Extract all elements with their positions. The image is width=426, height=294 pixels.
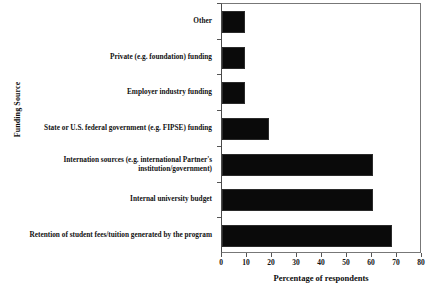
category-label: Internation sources (e.g. international … bbox=[16, 154, 212, 173]
x-axis-tick bbox=[321, 253, 322, 257]
category-label: State or U.S. federal government (e.g. F… bbox=[16, 123, 212, 133]
y-axis-tick bbox=[217, 74, 221, 75]
x-axis-tick-label: 10 bbox=[233, 258, 259, 267]
x-axis-title: Percentage of respondents bbox=[221, 273, 421, 283]
category-label: Private (e.g. foundation) funding bbox=[16, 52, 212, 62]
bar bbox=[222, 11, 245, 33]
category-label: Internal university budget bbox=[16, 195, 212, 205]
x-axis-tick bbox=[396, 253, 397, 257]
x-axis-tick bbox=[296, 253, 297, 257]
bar bbox=[222, 118, 269, 140]
bar bbox=[222, 82, 245, 104]
y-axis-tick bbox=[217, 39, 221, 40]
category-label: Employer industry funding bbox=[16, 88, 212, 98]
x-axis-tick-label: 50 bbox=[333, 258, 359, 267]
y-axis-tick bbox=[217, 3, 221, 4]
x-axis-tick bbox=[421, 253, 422, 257]
y-axis-tick bbox=[217, 110, 221, 111]
x-axis-tick bbox=[221, 253, 222, 257]
x-axis-tick-label: 30 bbox=[283, 258, 309, 267]
plot-area bbox=[221, 3, 421, 253]
category-label: Other bbox=[16, 16, 212, 26]
y-axis-tick bbox=[217, 182, 221, 183]
bar bbox=[222, 189, 373, 211]
x-axis-tick bbox=[371, 253, 372, 257]
x-axis-tick bbox=[271, 253, 272, 257]
bar bbox=[222, 154, 373, 176]
category-label: Retention of student fees/tuition genera… bbox=[16, 230, 212, 240]
x-axis-tick-label: 60 bbox=[358, 258, 384, 267]
x-axis-tick-label: 70 bbox=[383, 258, 409, 267]
bar-chart: Funding Source OtherPrivate (e.g. founda… bbox=[0, 0, 426, 294]
x-axis-tick bbox=[246, 253, 247, 257]
x-axis-tick-label: 20 bbox=[258, 258, 284, 267]
y-axis-tick bbox=[217, 146, 221, 147]
x-axis-tick-label: 0 bbox=[208, 258, 234, 267]
bar bbox=[222, 47, 245, 69]
bar bbox=[222, 225, 392, 247]
y-axis-tick bbox=[217, 217, 221, 218]
x-axis-tick bbox=[346, 253, 347, 257]
x-axis-tick-label: 40 bbox=[308, 258, 334, 267]
x-axis-tick-label: 80 bbox=[408, 258, 426, 267]
category-label-column: OtherPrivate (e.g. foundation) fundingEm… bbox=[18, 3, 216, 253]
